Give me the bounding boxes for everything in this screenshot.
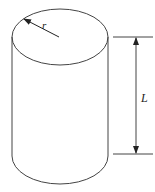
cylinder [12, 9, 108, 184]
radius-label: r [42, 19, 47, 31]
radius-indicator: r [24, 19, 59, 37]
cylinder-top-ellipse [12, 9, 108, 65]
length-label: L [140, 91, 148, 105]
cylinder-bottom-arc [12, 156, 108, 184]
cylinder-diagram: r L [0, 0, 155, 192]
